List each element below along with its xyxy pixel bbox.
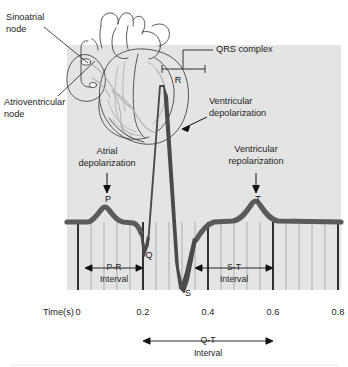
atrial-depolarization-label: Atrial depolarization — [57, 146, 157, 169]
st-interval-name: S-T — [204, 262, 264, 272]
axis-tick-1: 0.2 — [123, 307, 163, 317]
p-wave-label: P — [98, 194, 118, 204]
s-wave-label: S — [178, 288, 198, 298]
axis-tick-0: 0 — [58, 307, 98, 317]
st-interval-sub: Interval — [204, 274, 264, 284]
qt-interval-name: Q-T — [178, 335, 238, 345]
t-wave-label: T — [248, 194, 268, 204]
axis-tick-3: 0.6 — [253, 307, 293, 317]
q-wave-label: Q — [139, 250, 159, 260]
qt-interval-sub: Interval — [178, 348, 238, 358]
qrs-complex-label: QRS complex — [216, 44, 273, 56]
sinoatrial-node-marker — [81, 59, 90, 65]
r-wave-label: R — [168, 75, 188, 85]
ventricular-depolarization-label: Ventricular depolarization — [209, 96, 266, 119]
ecg-figure: Sinoatrial node Atrioventricular node QR… — [0, 0, 348, 367]
axis-tick-4: 0.8 — [318, 307, 348, 317]
axis-tick-2: 0.4 — [188, 307, 228, 317]
ventricular-repolarization-label: Ventricular repolarization — [206, 144, 306, 167]
sinoatrial-node-label: Sinoatrial node — [6, 12, 44, 35]
pr-interval-name: P-R — [84, 262, 144, 272]
atrioventricular-node-marker — [89, 82, 96, 87]
pr-interval-sub: Interval — [84, 274, 144, 284]
atrioventricular-node-label: Atrioventricular node — [4, 97, 65, 120]
